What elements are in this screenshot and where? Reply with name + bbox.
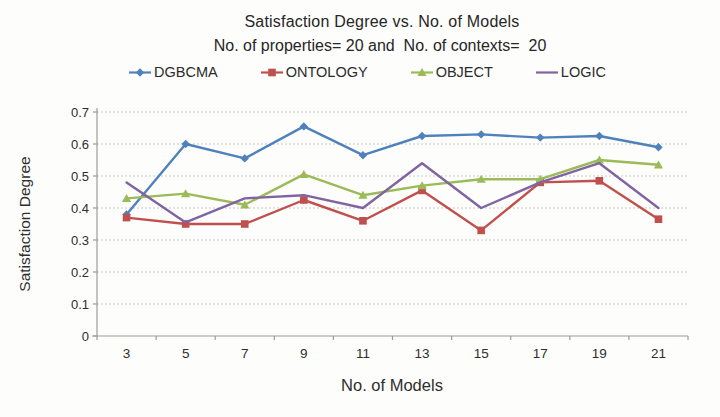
legend-label-dgbcma: DGBCMA — [154, 64, 218, 80]
x-tick-label: 15 — [474, 346, 489, 361]
legend-item-ontology: ONTOLOGY — [260, 64, 368, 80]
x-tick-label: 3 — [123, 346, 131, 361]
y-tick-label: 0.4 — [71, 201, 89, 216]
y-tick-label: 0.5 — [71, 169, 89, 184]
tick-labels: 00.10.20.30.40.50.60.73579111315171921 — [71, 105, 666, 362]
x-tick-label: 5 — [182, 346, 190, 361]
data-series — [122, 122, 663, 234]
y-tick-label: 0 — [82, 329, 89, 344]
series-logic — [127, 163, 659, 222]
logic-line-marker-icon — [535, 67, 559, 78]
legend-label-logic: LOGIC — [561, 64, 606, 80]
series-dgbcma — [122, 122, 662, 218]
x-tick-label: 9 — [300, 346, 308, 361]
chart-title: Satisfaction Degree vs. No. of Models — [0, 0, 720, 31]
x-tick-label: 11 — [356, 346, 370, 361]
legend: DGBCMA ONTOLOGY OBJECT LOGIC — [0, 64, 720, 80]
y-tick-label: 0.1 — [71, 297, 89, 312]
y-tick-label: 0.6 — [71, 137, 89, 152]
y-tick-label: 0.2 — [71, 265, 89, 280]
dgbcma-line-marker-icon — [128, 67, 152, 78]
x-tick-label: 7 — [241, 346, 249, 361]
x-tick-label: 17 — [533, 346, 548, 361]
chart-figure: Satisfaction Degree vs. No. of Models No… — [0, 0, 720, 417]
x-axis-title: No. of Models — [341, 376, 443, 394]
y-axis-title: Satisfaction Degree — [16, 156, 33, 291]
legend-label-object: OBJECT — [436, 64, 493, 80]
x-tick-label: 19 — [592, 346, 607, 361]
legend-label-ontology: ONTOLOGY — [286, 64, 368, 80]
y-tick-label: 0.7 — [71, 105, 89, 120]
plot-area: 00.10.20.30.40.50.60.73579111315171921 S… — [0, 104, 720, 417]
legend-item-object: OBJECT — [410, 64, 493, 80]
plot-svg: 00.10.20.30.40.50.60.73579111315171921 S… — [0, 104, 720, 417]
chart-subtitle: No. of properties= 20 and No. of context… — [0, 37, 720, 55]
legend-item-logic: LOGIC — [535, 64, 606, 80]
ontology-line-marker-icon — [260, 67, 284, 78]
y-tick-label: 0.3 — [71, 233, 89, 248]
object-line-marker-icon — [410, 67, 434, 78]
x-tick-label: 13 — [415, 346, 430, 361]
legend-item-dgbcma: DGBCMA — [128, 64, 218, 80]
x-tick-label: 21 — [651, 346, 666, 361]
